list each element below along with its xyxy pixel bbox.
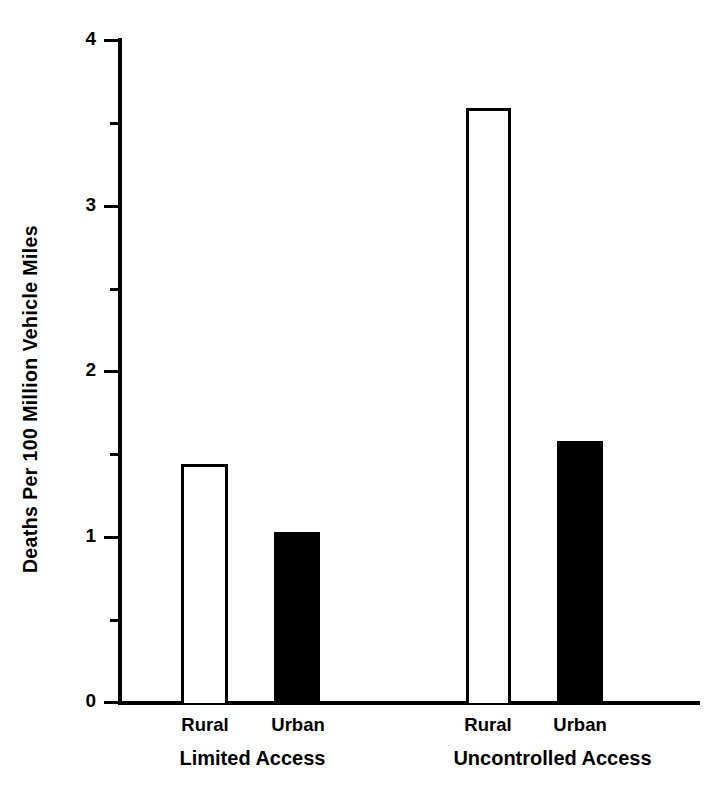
y-tick-label-0: 0 [66,691,96,710]
y-tick-major-2 [104,370,120,373]
bar-chart: Deaths Per 100 Million Vehicle Miles 4 3… [0,0,713,798]
y-tick-label-1-wrap: 1 [62,526,96,546]
x-label-group1-bar2: Urban [249,716,347,735]
bar-urban-limited-access [274,532,320,703]
bar-urban-uncontrolled-access [557,441,603,703]
bar-rural-uncontrolled-access [466,108,511,703]
y-tick-label-3-wrap: 3 [62,195,96,215]
bar-rural-limited-access [181,464,228,703]
x-group-label-limited-access: Limited Access [145,748,360,768]
y-tick-major-3 [104,205,120,208]
y-tick-major-4 [104,39,120,42]
plot-area: 4 3 2 1 0 Rural Urban Rural Urban [0,0,713,798]
x-group-label-uncontrolled-access: Uncontrolled Access [420,748,685,768]
y-tick-label-1: 1 [66,526,96,545]
y-tick-label-0-wrap: 0 [62,691,96,711]
y-tick-minor-3p5 [110,122,120,125]
x-label-group1-bar1: Rural [156,716,254,735]
y-tick-minor-1p5 [110,453,120,456]
y-tick-label-2-wrap: 2 [62,360,96,380]
y-tick-major-1 [104,536,120,539]
y-tick-minor-2p5 [110,288,120,291]
y-tick-label-3: 3 [66,195,96,214]
x-label-group2-bar2: Urban [531,716,629,735]
y-tick-label-4-wrap: 4 [62,29,96,49]
y-tick-minor-0p5 [110,619,120,622]
y-tick-label-2: 2 [66,360,96,379]
y-tick-major-0 [104,701,120,704]
y-tick-label-4: 4 [66,29,96,48]
x-label-group2-bar1: Rural [439,716,537,735]
